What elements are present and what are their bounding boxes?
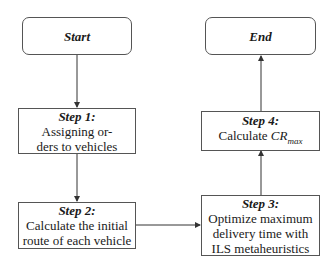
step4-title: Step 4: [242,113,279,128]
step4-node: Step 4: Calculate CRmax [201,111,320,151]
step3-text-line-1: Optimize maximum [208,211,312,226]
step1-text-line-2: ders to vehicles [37,139,118,154]
step4-text: Calculate CRmax [219,128,303,149]
step2-text-line-1: Calculate the initial [26,218,128,233]
step4-math-sub: max [287,136,302,146]
step3-text-line-2: delivery time with [213,226,308,241]
step3-node: Step 3: Optimize maximum delivery time w… [201,195,320,256]
step1-title: Step 1: [58,109,95,124]
step2-title: Step 2: [58,203,95,218]
start-node: Start [22,17,132,55]
end-node: End [205,17,316,55]
step3-text-line-3: ILS metaheuristics [212,241,310,256]
step2-node: Step 2: Calculate the initial route of e… [18,202,136,249]
start-label: Start [64,29,90,44]
step2-text-line-2: route of each vehicle [23,233,132,248]
end-label: End [249,29,271,44]
step4-text-prefix: Calculate [219,128,271,143]
step1-text-line-1: Assigning or- [42,124,113,139]
step3-title: Step 3: [242,196,279,211]
step1-node: Step 1: Assigning or- ders to vehicles [18,108,136,154]
step4-math-base: CR [271,128,288,143]
